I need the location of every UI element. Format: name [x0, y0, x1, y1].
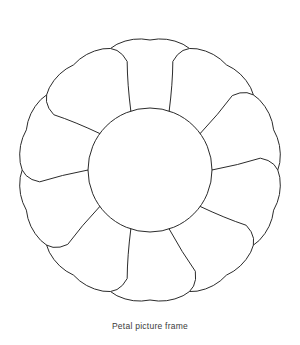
figure-caption: Petal picture frame — [0, 321, 300, 331]
petal-frame-drawing — [0, 0, 300, 345]
center-circle-frame — [88, 108, 212, 232]
petal-picture-frame-figure: Petal picture frame — [0, 0, 300, 345]
